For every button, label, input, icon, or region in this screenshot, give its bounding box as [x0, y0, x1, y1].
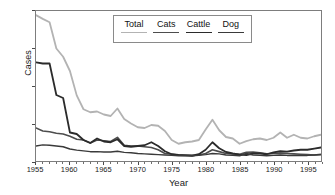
- x-tick-mark-minor: [267, 162, 268, 164]
- x-tick-mark-minor: [288, 162, 289, 164]
- x-tick-mark-minor: [144, 162, 145, 164]
- x-tick-mark-minor: [110, 162, 111, 164]
- x-tick-mark-minor: [131, 162, 132, 164]
- x-tick-mark-minor: [199, 162, 200, 164]
- x-tick-mark-minor: [247, 162, 248, 164]
- x-tick-mark-minor: [56, 162, 57, 164]
- legend-label: Dog: [223, 19, 240, 29]
- x-tick-mark-minor: [165, 162, 166, 164]
- chart-figure: Cases 01,0002,0003,0004,000 195519601965…: [0, 0, 335, 195]
- x-tick-mark-minor: [254, 162, 255, 164]
- x-tick-mark-minor: [62, 162, 63, 164]
- legend-item-total[interactable]: Total: [121, 19, 147, 33]
- legend-item-cats[interactable]: Cats: [153, 19, 179, 33]
- x-tick-mark-minor: [97, 162, 98, 164]
- legend-item-cattle[interactable]: Cattle: [186, 19, 212, 33]
- x-tick-mark-minor: [315, 162, 316, 164]
- legend-item-dog[interactable]: Dog: [218, 19, 244, 33]
- x-tick-mark-minor: [213, 162, 214, 164]
- legend-label: Cattle: [187, 19, 211, 29]
- x-tick-label: 1995: [288, 165, 328, 174]
- x-tick-mark-minor: [42, 162, 43, 164]
- x-tick-mark-minor: [117, 162, 118, 164]
- legend-swatch: [218, 32, 244, 33]
- x-tick-mark-minor: [233, 162, 234, 164]
- x-tick-mark-minor: [83, 162, 84, 164]
- legend-swatch: [153, 32, 179, 33]
- x-tick-mark-minor: [90, 162, 91, 164]
- x-tick-mark-minor: [281, 162, 282, 164]
- legend-swatch: [121, 32, 147, 33]
- y-axis-label: Cases: [23, 33, 33, 93]
- legend-label: Total: [125, 19, 144, 29]
- series-line-cattle: [36, 62, 321, 155]
- x-tick-mark-minor: [76, 162, 77, 164]
- x-tick-mark-minor: [158, 162, 159, 164]
- x-tick-mark-minor: [124, 162, 125, 164]
- x-tick-mark-minor: [302, 162, 303, 164]
- x-tick-mark-minor: [49, 162, 50, 164]
- x-tick-mark-minor: [185, 162, 186, 164]
- x-tick-mark-minor: [179, 162, 180, 164]
- legend-swatch: [186, 32, 212, 33]
- x-tick-mark-minor: [151, 162, 152, 164]
- x-tick-mark-minor: [226, 162, 227, 164]
- x-tick-mark-minor: [192, 162, 193, 164]
- legend-label: Cats: [157, 19, 176, 29]
- x-axis-label: Year: [35, 177, 322, 188]
- x-tick-mark-minor: [322, 162, 323, 164]
- x-tick-mark-minor: [261, 162, 262, 164]
- x-tick-mark-minor: [295, 162, 296, 164]
- chart-legend: TotalCatsCattleDog: [113, 15, 252, 43]
- x-tick-mark-minor: [220, 162, 221, 164]
